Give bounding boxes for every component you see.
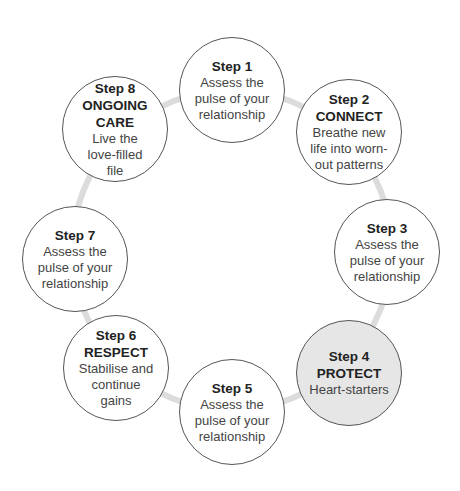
step-description: Stabilise and continue gains	[69, 361, 163, 409]
step-label: Step 6	[96, 327, 137, 344]
step-description: Breathe new life into worn-out patterns	[298, 125, 400, 173]
step-description: Live the love-filled file	[72, 131, 158, 179]
step-title: RESPECT	[84, 344, 148, 361]
step-1-node: Step 1 Assess the pulse of your relation…	[179, 37, 285, 143]
step-title: PROTECT	[317, 365, 382, 382]
step-description: Assess the pulse of your relationship	[186, 75, 278, 123]
step-label: Step 7	[55, 227, 96, 244]
step-title: CONNECT	[316, 108, 383, 125]
step-label: Step 2	[329, 91, 370, 108]
step-label: Step 8	[95, 80, 136, 97]
step-7-node: Step 7 Assess the pulse of your relation…	[22, 206, 128, 312]
step-5-node: Step 5 Assess the pulse of your relation…	[179, 359, 285, 465]
step-description: Assess the pulse of your relationship	[341, 237, 433, 285]
step-description: Assess the pulse of your relationship	[186, 397, 278, 445]
step-4-node: Step 4 PROTECT Heart-starters	[296, 320, 402, 426]
step-description: Assess the pulse of your relationship	[29, 244, 121, 292]
step-label: Step 5	[212, 380, 253, 397]
step-description: Heart-starters	[303, 382, 394, 398]
step-3-node: Step 3 Assess the pulse of your relation…	[334, 199, 440, 305]
step-8-node: Step 8 ONGOING CARE Live the love-filled…	[62, 76, 168, 182]
step-label: Step 1	[212, 58, 253, 75]
step-label: Step 4	[329, 348, 370, 365]
step-label: Step 3	[367, 220, 408, 237]
step-2-node: Step 2 CONNECT Breathe new life into wor…	[296, 79, 402, 185]
step-title: ONGOING CARE	[75, 97, 155, 131]
step-6-node: Step 6 RESPECT Stabilise and continue ga…	[63, 315, 169, 421]
cycle-diagram: Step 1 Assess the pulse of your relation…	[0, 0, 460, 491]
